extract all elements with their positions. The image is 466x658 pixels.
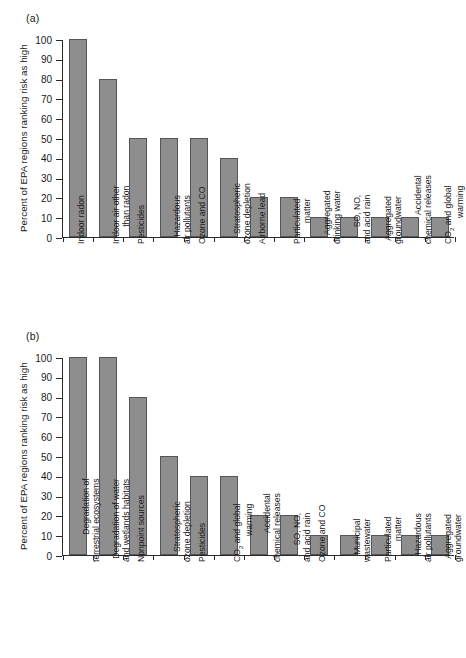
y-tick-label-b-30: 30 [41,492,52,502]
y-tick-b-20: 20 [56,516,62,517]
y-tick-label-a-100: 100 [35,36,52,46]
y-tick-label-b-60: 60 [41,433,52,443]
y-tick-label-b-100: 100 [35,354,52,364]
x-tick-label: Municipalwastewater [353,519,372,562]
y-tick-a-40: 40 [56,159,62,160]
y-tick-a-50: 50 [56,139,62,140]
y-tick-a-20: 20 [56,198,62,199]
y-tick-label-a-10: 10 [41,214,52,224]
x-tick-label: Hazardousair pollutants [173,195,192,244]
y-tick-a-90: 90 [56,60,62,61]
y-tick-label-b-90: 90 [41,373,52,383]
y-tick-b-0: 0 [56,556,62,557]
y-tick-label-b-70: 70 [41,413,52,423]
y-tick-label-a-60: 60 [41,115,52,125]
panel-a-y-axis-label: Percent of EPA regions ranking risk as h… [18,44,29,232]
y-tick-label-b-20: 20 [41,512,52,522]
x-tick-label: Ozone and CO [318,505,328,562]
y-tick-label-a-40: 40 [41,154,52,164]
y-tick-b-70: 70 [56,417,62,418]
y-tick-a-100: 100 [56,40,62,41]
y-tick-a-80: 80 [56,80,62,81]
x-tick-label: Particulatedmatter [293,199,312,244]
x-tick-label: Indoor air otherthan radon [112,186,131,244]
y-tick-a-60: 60 [56,119,62,120]
y-tick-label-a-70: 70 [41,95,52,105]
x-tick-label: Aggregateddrinking water [323,191,342,245]
x-tick-label: CO2 and globalwarming [444,186,466,244]
y-tick-label-a-50: 50 [41,135,52,145]
y-tick-a-10: 10 [56,218,62,219]
y-tick-label-a-30: 30 [41,174,52,184]
y-tick-label-b-50: 50 [41,453,52,463]
x-tick-label: Stratosphericozone depletion [173,501,192,562]
y-tick-b-30: 30 [56,497,62,498]
y-tick-a-30: 30 [56,179,62,180]
y-tick-label-a-80: 80 [41,75,52,85]
x-tick-label: Aggregatedgroundwater [444,514,463,562]
y-tick-b-90: 90 [56,378,62,379]
y-tick-label-b-40: 40 [41,472,52,482]
x-tick-label: Stratosphericozone depletion [233,183,252,244]
y-tick-a-0: 0 [56,238,62,239]
panel-b-x-tick-labels: Degradation ofterrestrial ecosystemsDegr… [62,558,454,658]
x-tick-label: Aggregatedgroundwater [384,196,403,244]
x-tick-label: CO2 and globalwarming [233,504,255,562]
x-tick-label: Hazardousair pollutants [414,513,433,562]
y-tick-a-70: 70 [56,99,62,100]
y-tick-label-a-0: 0 [46,234,52,244]
x-tick-label: Ozone and CO [198,187,208,244]
x-tick-label: Pesticides [137,205,147,244]
y-tick-b-100: 100 [56,358,62,359]
y-tick-label-a-90: 90 [41,55,52,65]
y-tick-label-b-0: 0 [46,552,52,562]
x-tick-label: Accidentalchemical releases [263,493,282,562]
y-tick-b-80: 80 [56,398,62,399]
y-tick-b-50: 50 [56,457,62,458]
chart-panel-a: (a) Percent of EPA regions ranking risk … [0,0,465,318]
x-tick-label: Pesticides [198,523,208,562]
x-tick-label: Airborne lead [258,193,268,244]
x-tick-label: Particulatedmatter [384,517,403,562]
y-tick-label-b-10: 10 [41,532,52,542]
chart-panel-b: (b) Percent of EPA regions ranking risk … [0,318,465,658]
x-tick-label: Indoor radon [77,195,87,244]
x-tick-label: Degradation ofterrestrial ecosystems [82,478,101,562]
x-tick-label: Degradation of waterand wetlands habitat… [112,479,131,562]
x-tick-label: SO, NO,and acid rain [293,513,312,562]
y-tick-label-a-20: 20 [41,194,52,204]
y-tick-b-10: 10 [56,536,62,537]
panel-a-tag: (a) [26,12,39,24]
y-tick-b-40: 40 [56,477,62,478]
x-tick-label: Accidentalchemical releases [414,175,433,244]
panel-a-x-tick-labels: Indoor radonIndoor air otherthan radonPe… [62,240,454,318]
x-tick-label: SO, NO,and acid rain [353,195,372,244]
panel-b-tag: (b) [26,330,39,342]
panel-b-y-axis-label: Percent of EPA regions ranking risk as h… [18,362,29,550]
x-tick-label: Nonpoint sources [137,495,147,562]
y-tick-b-60: 60 [56,437,62,438]
y-tick-label-b-80: 80 [41,393,52,403]
